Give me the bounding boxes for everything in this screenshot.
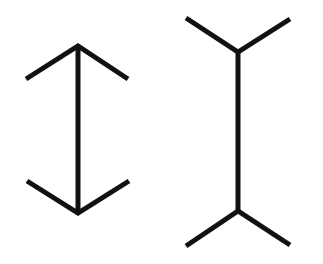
left-figure-outward-arrows <box>26 46 129 213</box>
right-bottom-fins <box>186 211 290 246</box>
right-top-fins <box>186 18 290 52</box>
right-figure-inward-fins <box>186 18 290 246</box>
muller-lyer-diagram <box>0 0 323 264</box>
